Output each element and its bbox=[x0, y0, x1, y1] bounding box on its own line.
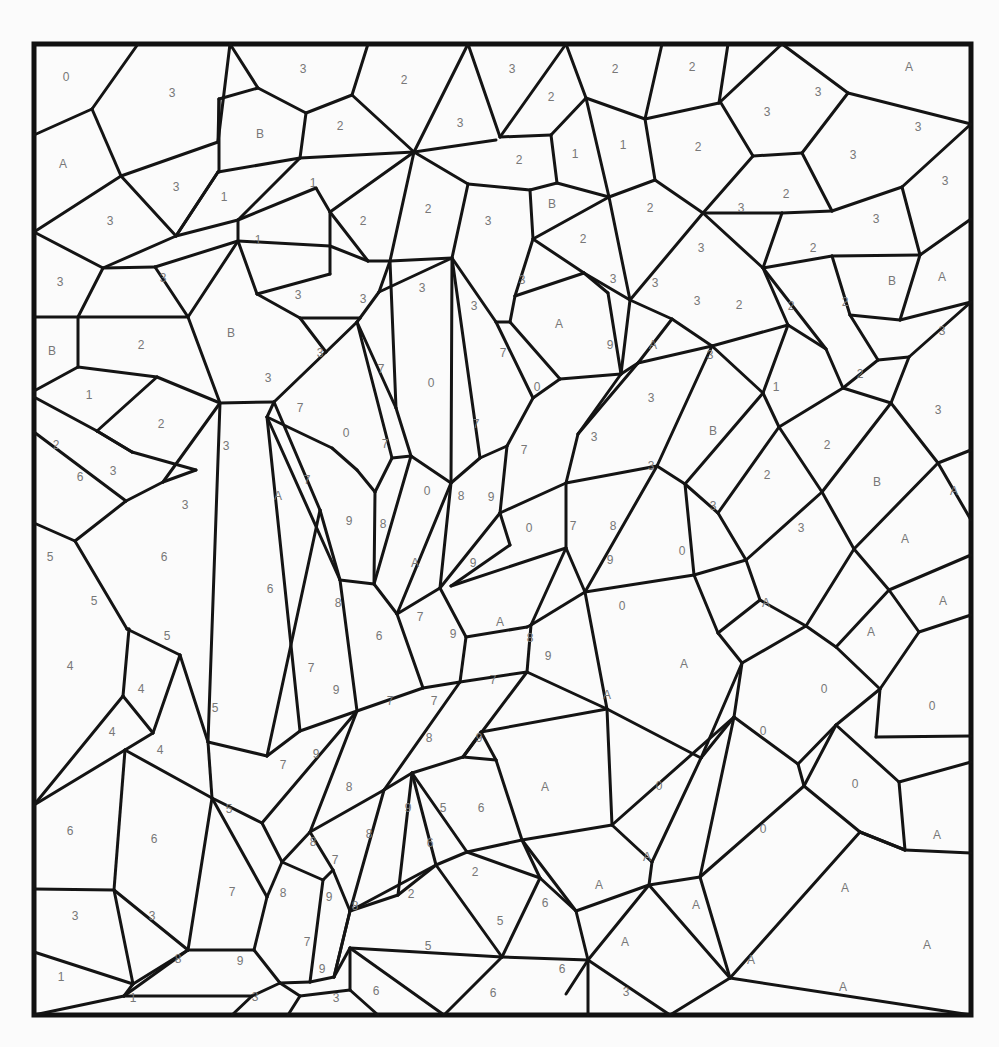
cell-label[interactable]: 3 bbox=[457, 116, 464, 130]
cell-label[interactable]: 9 bbox=[545, 649, 552, 663]
cell-label[interactable]: 3 bbox=[252, 990, 259, 1004]
cell-label[interactable]: 2 bbox=[408, 887, 415, 901]
cell-label[interactable]: A bbox=[762, 596, 770, 610]
cell-label[interactable]: 8 bbox=[458, 489, 465, 503]
cell-label[interactable]: 0 bbox=[63, 70, 70, 84]
cell-label[interactable]: 8 bbox=[352, 899, 359, 913]
cell-label[interactable]: B bbox=[873, 475, 881, 489]
cell-label[interactable]: 6 bbox=[376, 629, 383, 643]
cell-label[interactable]: 7 bbox=[490, 673, 497, 687]
cell-label[interactable]: 3 bbox=[333, 991, 340, 1005]
cell-label[interactable]: 1 bbox=[58, 970, 65, 984]
cell-label[interactable]: 6 bbox=[67, 824, 74, 838]
cell-label[interactable]: B bbox=[548, 197, 556, 211]
cell-label[interactable]: 3 bbox=[471, 299, 478, 313]
cell-label[interactable]: 7 bbox=[229, 885, 236, 899]
cell-label[interactable]: 8 bbox=[366, 827, 373, 841]
cell-label[interactable]: 3 bbox=[295, 288, 302, 302]
cell-label[interactable]: 2 bbox=[53, 438, 60, 452]
cell-label[interactable]: 0 bbox=[619, 599, 626, 613]
cell-label[interactable]: 2 bbox=[158, 417, 165, 431]
cell-label[interactable]: A bbox=[680, 657, 688, 671]
cell-label[interactable]: 2 bbox=[783, 187, 790, 201]
cell-label[interactable]: 8 bbox=[310, 835, 317, 849]
cell-label[interactable]: 7 bbox=[473, 417, 480, 431]
cell-label[interactable]: 3 bbox=[485, 214, 492, 228]
cell-label[interactable]: A bbox=[59, 157, 67, 171]
cell-label[interactable]: 3 bbox=[764, 105, 771, 119]
cell-label[interactable]: B bbox=[227, 326, 235, 340]
cell-label[interactable]: 3 bbox=[110, 464, 117, 478]
cell-label[interactable]: 8 bbox=[610, 519, 617, 533]
cell-label[interactable]: A bbox=[496, 615, 504, 629]
cell-label[interactable]: 3 bbox=[223, 439, 230, 453]
cell-label[interactable]: 7 bbox=[382, 437, 389, 451]
cell-label[interactable]: 4 bbox=[67, 659, 74, 673]
cell-label[interactable]: 1 bbox=[773, 380, 780, 394]
cell-label[interactable]: 9 bbox=[405, 801, 412, 815]
cell-label[interactable]: 9 bbox=[346, 514, 353, 528]
cell-label[interactable]: 1 bbox=[255, 233, 262, 247]
cell-label[interactable]: 0 bbox=[656, 779, 663, 793]
cell-label[interactable]: 5 bbox=[91, 594, 98, 608]
cell-label[interactable]: A bbox=[933, 828, 941, 842]
cell-label[interactable]: A bbox=[905, 60, 913, 74]
cell-label[interactable]: A bbox=[274, 489, 282, 503]
cell-label[interactable]: A bbox=[595, 878, 603, 892]
cell-label[interactable]: 8 bbox=[346, 780, 353, 794]
cell-label[interactable]: 3 bbox=[160, 271, 167, 285]
cell-label[interactable]: 3 bbox=[798, 521, 805, 535]
cell-label[interactable]: 3 bbox=[265, 371, 272, 385]
cell-label[interactable]: 4 bbox=[109, 725, 116, 739]
cell-label[interactable]: A bbox=[649, 338, 657, 352]
cell-label[interactable]: 2 bbox=[580, 232, 587, 246]
cell-label[interactable]: A bbox=[692, 898, 700, 912]
cell-label[interactable]: 3 bbox=[300, 62, 307, 76]
cell-label[interactable]: 9 bbox=[488, 490, 495, 504]
cell-label[interactable]: 6 bbox=[490, 986, 497, 1000]
cell-label[interactable]: 3 bbox=[509, 62, 516, 76]
cell-label[interactable]: 2 bbox=[824, 438, 831, 452]
cell-label[interactable]: 2 bbox=[425, 202, 432, 216]
cell-label[interactable]: 7 bbox=[378, 362, 385, 376]
cell-label[interactable]: 0 bbox=[424, 484, 431, 498]
cell-label[interactable]: 5 bbox=[497, 914, 504, 928]
cell-label[interactable]: 2 bbox=[516, 153, 523, 167]
cell-label[interactable]: 2 bbox=[360, 214, 367, 228]
cell-label[interactable]: 0 bbox=[526, 521, 533, 535]
cell-label[interactable]: 5 bbox=[212, 701, 219, 715]
cell-label[interactable]: B bbox=[709, 424, 717, 438]
cell-label[interactable]: 6 bbox=[559, 962, 566, 976]
cell-label[interactable]: 6 bbox=[161, 550, 168, 564]
cell-label[interactable]: 2 bbox=[647, 201, 654, 215]
cell-label[interactable]: 1 bbox=[572, 147, 579, 161]
cell-label[interactable]: 2 bbox=[764, 468, 771, 482]
cell-label[interactable]: 3 bbox=[694, 294, 701, 308]
cell-label[interactable]: A bbox=[938, 270, 946, 284]
cell-label[interactable]: 5 bbox=[425, 939, 432, 953]
cell-label[interactable]: 4 bbox=[138, 682, 145, 696]
cell-label[interactable]: 7 bbox=[304, 473, 311, 487]
cell-label[interactable]: 6 bbox=[542, 896, 549, 910]
cell-label[interactable]: 2 bbox=[689, 60, 696, 74]
cell-label[interactable]: 3 bbox=[107, 214, 114, 228]
cell-label[interactable]: 9 bbox=[470, 556, 477, 570]
cell-label[interactable]: 3 bbox=[850, 148, 857, 162]
cell-label[interactable]: 8 bbox=[335, 596, 342, 610]
cell-label[interactable]: 2 bbox=[736, 298, 743, 312]
cell-label[interactable]: 3 bbox=[72, 909, 79, 923]
cell-label[interactable]: 3 bbox=[57, 275, 64, 289]
cell-label[interactable]: 8 bbox=[426, 731, 433, 745]
cell-label[interactable]: 2 bbox=[401, 73, 408, 87]
cell-label[interactable]: A bbox=[411, 556, 419, 570]
cell-label[interactable]: 3 bbox=[707, 348, 714, 362]
cell-label[interactable]: 0 bbox=[929, 699, 936, 713]
cell-label[interactable]: 2 bbox=[472, 865, 479, 879]
cell-label[interactable]: 9 bbox=[607, 338, 614, 352]
cell-label[interactable]: 8 bbox=[175, 952, 182, 966]
cell-label[interactable]: 2 bbox=[695, 140, 702, 154]
cell-label[interactable]: 8 bbox=[527, 631, 534, 645]
cell-label[interactable]: 3 bbox=[149, 909, 156, 923]
cell-label[interactable]: 7 bbox=[570, 519, 577, 533]
cell-label[interactable]: 3 bbox=[519, 273, 526, 287]
